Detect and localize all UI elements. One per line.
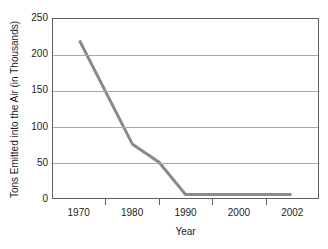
x-axis-tick-label: 2000 [216,207,262,219]
y-axis-tick-label: 100 [14,122,48,132]
gridline [53,127,318,128]
x-axis-tick [212,199,213,205]
x-axis-tick-label: 1980 [109,207,155,219]
emissions-line-chart: Tons Emitted into the Air (in Thousands)… [0,0,328,249]
x-axis-tick-label: 1970 [56,207,102,219]
gridline [53,55,318,56]
plot-area [52,18,319,199]
x-axis-tick-label: 2002 [269,207,315,219]
data-series-layer [53,19,318,198]
y-axis-tick-label: 50 [14,158,48,168]
x-axis-tick-label: 1990 [163,207,209,219]
x-axis-tick [159,199,160,205]
x-axis-tick [266,199,267,205]
y-axis-tick-labels: 050100150200250 [12,0,48,249]
gridline [53,163,318,164]
x-axis-tick [105,199,106,205]
x-axis-title: Year [52,226,319,237]
y-axis-tick-label: 0 [14,194,48,204]
series-line-tons-emitted [80,40,292,194]
y-axis-tick-label: 250 [14,13,48,23]
y-axis-tick-label: 200 [14,49,48,59]
y-axis-tick-label: 150 [14,85,48,95]
gridline [53,91,318,92]
